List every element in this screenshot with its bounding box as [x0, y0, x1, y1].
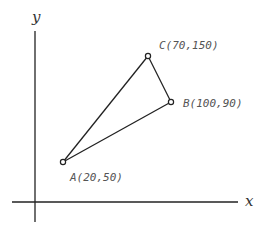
point-c-label: C(70,150) [159, 39, 219, 52]
point-a-label: A(20,50) [69, 171, 123, 184]
point-a [60, 159, 65, 164]
edge-b-a [63, 102, 171, 162]
point-b [168, 99, 173, 104]
edge-c-b [148, 56, 171, 102]
point-b-label: B(100,90) [183, 97, 243, 110]
point-c [145, 53, 150, 58]
y-axis-label: y [31, 8, 41, 26]
triangle-diagram: y x A(20,50) B(100,90) C(70,150) [0, 0, 267, 231]
edge-a-c [63, 56, 148, 162]
x-axis-label: x [245, 192, 254, 210]
